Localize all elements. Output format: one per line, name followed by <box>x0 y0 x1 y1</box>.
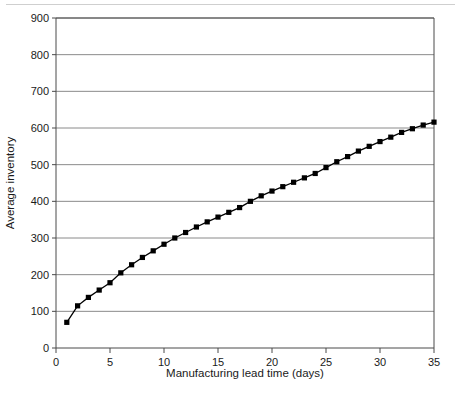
data-point-marker <box>107 280 112 285</box>
data-point-marker <box>388 135 393 140</box>
y-tick-labels: 0100200300400500600700800900 <box>31 12 49 354</box>
data-point-marker <box>161 242 166 247</box>
top-divider-rule <box>6 4 455 5</box>
data-point-marker <box>313 171 318 176</box>
data-point-marker <box>280 184 285 189</box>
data-point-marker <box>377 139 382 144</box>
data-point-marker <box>269 188 274 193</box>
data-point-marker <box>151 248 156 253</box>
y-tick-label: 600 <box>31 122 49 134</box>
data-point-marker <box>183 230 188 235</box>
data-point-marker <box>118 270 123 275</box>
line-chart: 0100200300400500600700800900 05101520253… <box>0 0 461 395</box>
data-point-marker <box>334 159 339 164</box>
data-point-marker <box>237 205 242 210</box>
data-point-marker <box>291 180 296 185</box>
y-tick-label: 800 <box>31 49 49 61</box>
y-tick-label: 500 <box>31 159 49 171</box>
grid-lines <box>56 18 434 311</box>
x-tick-label: 5 <box>107 356 113 368</box>
x-tick-label: 0 <box>53 356 59 368</box>
y-axis-title: Average inventory <box>4 137 16 230</box>
data-point-marker <box>194 224 199 229</box>
chart-figure: 0100200300400500600700800900 05101520253… <box>0 0 461 395</box>
y-tick-marks <box>52 18 56 348</box>
data-point-marker <box>248 199 253 204</box>
y-tick-label: 700 <box>31 85 49 97</box>
data-point-marker <box>205 219 210 224</box>
data-point-marker <box>323 165 328 170</box>
data-point-marker <box>64 320 69 325</box>
y-tick-label: 200 <box>31 269 49 281</box>
series-line-average-inventory <box>67 122 434 322</box>
data-point-marker <box>421 122 426 127</box>
data-point-marker <box>86 295 91 300</box>
data-point-marker <box>172 235 177 240</box>
data-point-marker <box>226 210 231 215</box>
y-tick-label: 300 <box>31 232 49 244</box>
y-tick-label: 900 <box>31 12 49 24</box>
data-point-marker <box>431 120 436 125</box>
x-tick-marks <box>56 348 434 353</box>
data-point-marker <box>259 193 264 198</box>
x-tick-label: 30 <box>374 356 386 368</box>
y-tick-label: 0 <box>43 342 49 354</box>
y-tick-label: 100 <box>31 305 49 317</box>
data-point-marker <box>345 154 350 159</box>
data-point-marker <box>97 287 102 292</box>
data-point-marker <box>367 144 372 149</box>
data-point-marker <box>410 126 415 131</box>
data-point-marker <box>356 149 361 154</box>
data-point-marker <box>75 303 80 308</box>
y-tick-label: 400 <box>31 195 49 207</box>
x-tick-label: 35 <box>428 356 440 368</box>
series-markers-average-inventory <box>64 120 436 325</box>
data-point-marker <box>140 255 145 260</box>
data-point-marker <box>215 215 220 220</box>
x-axis-title: Manufacturing lead time (days) <box>166 367 324 379</box>
data-point-marker <box>129 262 134 267</box>
data-point-marker <box>302 175 307 180</box>
data-point-marker <box>399 130 404 135</box>
